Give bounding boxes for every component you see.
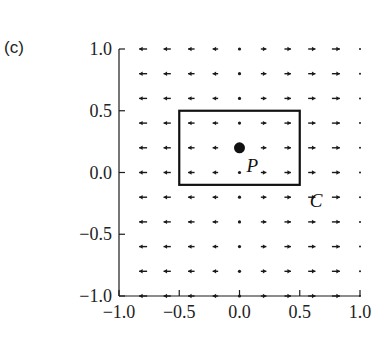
arrow-right-icon xyxy=(284,294,291,298)
arrow-left-icon xyxy=(213,146,219,150)
arrow-right-icon xyxy=(332,96,340,100)
arrow-right-icon xyxy=(308,146,315,150)
arrow-right-icon xyxy=(284,47,291,51)
arrow-right-icon xyxy=(284,220,291,224)
arrow-right-icon xyxy=(308,244,315,248)
arrow-left-icon xyxy=(188,170,195,174)
arrow-right-icon xyxy=(332,121,340,125)
vector-dot xyxy=(238,97,241,100)
x-tick-label: 0.5 xyxy=(289,302,312,322)
arrow-left-icon xyxy=(188,72,195,76)
arrow-right-icon xyxy=(284,146,291,150)
vector-dot xyxy=(238,72,241,75)
arrow-right-icon xyxy=(284,195,291,199)
vector-dot xyxy=(359,172,361,174)
vector-dot xyxy=(359,295,361,297)
arrow-left-icon xyxy=(188,146,195,150)
vector-dot xyxy=(238,270,241,273)
y-tick-label: 0.5 xyxy=(90,101,113,121)
vector-field-figure: (c) 1.00.50.0−0.5−1.0−1.0−0.50.00.51.0 P… xyxy=(0,0,388,347)
arrow-left-icon xyxy=(139,294,147,298)
arrow-left-icon xyxy=(188,244,195,248)
x-tick-label: −0.5 xyxy=(163,302,196,322)
vector-dot xyxy=(359,73,361,75)
arrow-right-icon xyxy=(284,244,291,248)
arrow-left-icon xyxy=(164,195,171,199)
arrow-left-icon xyxy=(139,146,147,150)
arrow-left-icon xyxy=(188,269,195,273)
vector-dot xyxy=(238,220,241,223)
point-p-label: P xyxy=(246,155,259,176)
ticks: 1.00.50.0−0.5−1.0−1.0−0.50.00.51.0 xyxy=(79,39,371,322)
arrow-right-icon xyxy=(261,96,267,100)
arrow-left-icon xyxy=(139,269,147,273)
vector-dot xyxy=(238,122,241,125)
y-tick-label: 0.0 xyxy=(90,163,113,183)
arrow-right-icon xyxy=(261,195,267,199)
arrow-left-icon xyxy=(139,96,147,100)
x-tick-label: 0.0 xyxy=(228,302,251,322)
arrow-right-icon xyxy=(308,72,315,76)
arrow-left-icon xyxy=(164,47,171,51)
arrow-right-icon xyxy=(332,294,340,298)
vector-dot xyxy=(359,221,361,223)
arrow-right-icon xyxy=(308,170,315,174)
arrow-left-icon xyxy=(188,195,195,199)
point-p-dot xyxy=(234,142,245,153)
vector-dot xyxy=(359,122,361,124)
arrow-left-icon xyxy=(139,121,147,125)
arrow-left-icon xyxy=(213,294,219,298)
x-tick-label: 1.0 xyxy=(349,302,372,322)
vector-dot xyxy=(359,246,361,248)
arrow-left-icon xyxy=(213,96,219,100)
arrow-right-icon xyxy=(308,121,315,125)
arrow-right-icon xyxy=(284,170,291,174)
arrow-right-icon xyxy=(308,47,315,51)
arrow-left-icon xyxy=(164,96,171,100)
arrow-right-icon xyxy=(332,72,340,76)
arrow-left-icon xyxy=(139,195,147,199)
vector-dot xyxy=(238,245,241,248)
vector-dot xyxy=(359,196,361,198)
arrow-right-icon xyxy=(261,294,267,298)
vector-dot xyxy=(238,171,241,174)
arrow-right-icon xyxy=(261,72,267,76)
vector-dot xyxy=(238,47,241,50)
arrow-left-icon xyxy=(213,269,219,273)
vector-dot xyxy=(359,147,361,149)
arrow-left-icon xyxy=(213,72,219,76)
arrow-left-icon xyxy=(188,294,195,298)
arrow-right-icon xyxy=(261,220,267,224)
arrow-left-icon xyxy=(188,47,195,51)
arrow-right-icon xyxy=(261,146,267,150)
arrow-left-icon xyxy=(164,244,171,248)
arrow-right-icon xyxy=(332,244,340,248)
arrow-left-icon xyxy=(164,121,171,125)
y-tick-label: −0.5 xyxy=(79,224,112,244)
arrow-left-icon xyxy=(164,220,171,224)
arrow-right-icon xyxy=(261,170,267,174)
arrow-right-icon xyxy=(332,146,340,150)
plot-area: 1.00.50.0−0.5−1.0−1.0−0.50.00.51.0 P C xyxy=(0,0,388,347)
arrow-right-icon xyxy=(284,72,291,76)
vector-dot xyxy=(238,196,241,199)
arrow-right-icon xyxy=(308,96,315,100)
x-tick-label: −1.0 xyxy=(103,302,136,322)
arrow-left-icon xyxy=(164,72,171,76)
vector-dot xyxy=(238,294,241,297)
y-tick-label: 1.0 xyxy=(90,39,113,59)
arrow-left-icon xyxy=(164,170,171,174)
arrow-left-icon xyxy=(213,47,219,51)
arrow-right-icon xyxy=(261,269,267,273)
arrow-right-icon xyxy=(284,121,291,125)
arrow-right-icon xyxy=(332,195,340,199)
panel-label: (c) xyxy=(4,38,24,58)
arrow-left-icon xyxy=(213,195,219,199)
arrow-right-icon xyxy=(308,269,315,273)
arrow-left-icon xyxy=(188,121,195,125)
arrow-left-icon xyxy=(188,220,195,224)
arrow-left-icon xyxy=(164,269,171,273)
arrow-right-icon xyxy=(284,96,291,100)
arrow-right-icon xyxy=(261,121,267,125)
arrow-left-icon xyxy=(164,294,171,298)
